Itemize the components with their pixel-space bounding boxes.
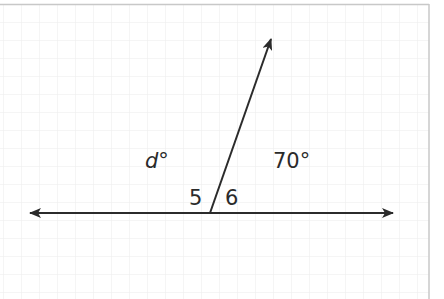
- angle-5-label: 5: [189, 186, 202, 210]
- left-angle-label: d°: [145, 149, 169, 173]
- grid-background: [0, 4, 429, 299]
- degree-symbol: °: [158, 149, 169, 173]
- angle-6-label: 6: [225, 186, 238, 210]
- angle-diagram: d° 70° 5 6: [0, 0, 444, 299]
- angle-variable-d: d: [145, 149, 159, 173]
- right-angle-label: 70°: [273, 149, 310, 173]
